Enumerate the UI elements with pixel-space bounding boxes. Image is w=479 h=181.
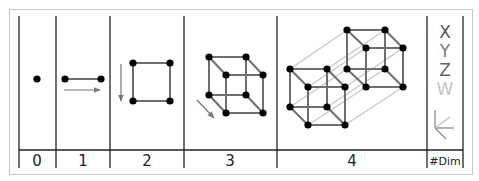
dim-label-0: 0 [32,152,42,170]
segment-1d [61,75,104,90]
axis-legend: X Y Z W [435,22,454,139]
square-2d [121,59,174,104]
tesseract-4d [286,26,406,128]
vertex [61,75,68,82]
dim-label-2: 2 [142,152,152,170]
axes-icon [435,110,454,139]
dimension-labels: 0 1 2 3 4 #Dim [32,152,461,170]
point-0d [33,75,40,82]
arrow-diagonal-icon [197,100,214,118]
dim-label-4: 4 [347,152,357,170]
dim-column-header: #Dim [429,155,460,168]
axis-y-label: Y [439,41,451,61]
cube-3d [197,53,267,118]
dimensions-diagram: X Y Z W 0 1 2 3 4 #Dim [0,0,479,181]
axis-x-label: X [439,22,451,42]
dim-label-1: 1 [78,152,88,170]
dim-label-3: 3 [225,152,235,170]
vertex [97,75,104,82]
axis-w-label: W [437,79,454,99]
axis-z-label: Z [439,60,451,80]
vertex [33,75,40,82]
